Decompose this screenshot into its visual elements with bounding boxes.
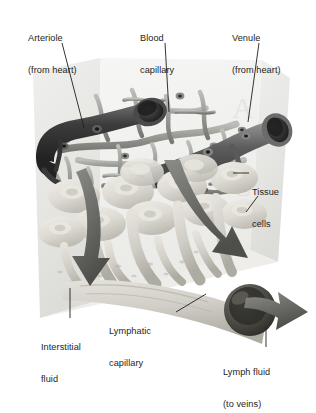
label-venule: Venule (from heart)	[232, 12, 281, 97]
label-tissue-cells: Tissue cells	[252, 166, 279, 251]
label-tissue-cells-line1: Tissue	[252, 187, 279, 198]
label-interstitial-fluid-line2: fluid	[41, 374, 81, 385]
label-tissue-cells-line2: cells	[252, 219, 279, 230]
label-blood-capillary: Blood capillary	[140, 12, 174, 97]
label-lymph-fluid-line1: Lymph fluid	[223, 367, 270, 378]
label-venule-line1: Venule	[232, 33, 281, 44]
label-lymph-fluid-line2: (to veins)	[223, 399, 270, 410]
label-venule-line2: (from heart)	[232, 65, 281, 76]
label-lymphatic-capillary: Lymphatic capillary	[109, 305, 151, 390]
label-arteriole-line1: Arteriole	[28, 33, 77, 44]
label-lymphatic-capillary-line1: Lymphatic	[109, 326, 151, 337]
lymphatic-capillary-trunk	[62, 280, 276, 344]
label-interstitial-fluid-line1: Interstitial	[41, 342, 81, 353]
label-lymphatic-capillary-line2: capillary	[109, 358, 151, 369]
label-blood-capillary-line2: capillary	[140, 65, 174, 76]
label-lymph-fluid: Lymph fluid (to veins)	[223, 346, 270, 413]
label-arteriole-line2: (from heart)	[28, 65, 77, 76]
label-arteriole: Arteriole (from heart)	[28, 12, 77, 97]
tissue-cell	[120, 158, 164, 186]
label-interstitial-fluid: Interstitial fluid	[41, 321, 81, 406]
label-blood-capillary-line1: Blood	[140, 33, 174, 44]
